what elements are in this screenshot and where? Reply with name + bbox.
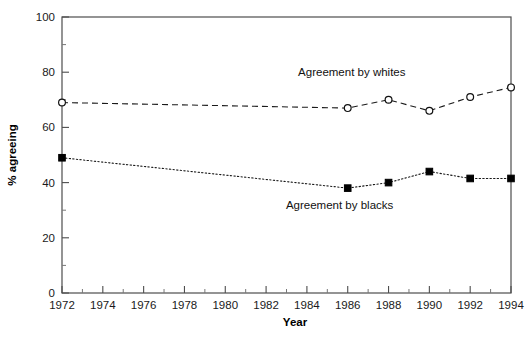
chart-background	[0, 0, 526, 339]
y-tick-label: 20	[42, 232, 55, 244]
chart-container: 020406080100 197219741976197819801982198…	[0, 0, 526, 339]
annotation-label-blacks: Agreement by blacks	[286, 199, 394, 211]
x-tick-label: 1986	[335, 299, 361, 311]
line-chart: 020406080100 197219741976197819801982198…	[0, 0, 526, 339]
x-tick-label: 1994	[498, 299, 524, 311]
x-tick-label: 1992	[457, 299, 483, 311]
data-point-marker	[59, 99, 66, 106]
y-tick-label: 60	[42, 121, 55, 133]
data-point-marker	[344, 105, 351, 112]
data-point-marker	[467, 175, 474, 182]
x-tick-label: 1978	[172, 299, 198, 311]
data-point-marker	[508, 84, 515, 91]
x-tick-label: 1990	[417, 299, 443, 311]
data-point-marker	[344, 185, 351, 192]
x-tick-label: 1988	[376, 299, 402, 311]
y-tick-label: 40	[42, 177, 55, 189]
data-point-marker	[385, 96, 392, 103]
x-tick-label: 1974	[90, 299, 116, 311]
data-point-marker	[508, 175, 515, 182]
x-tick-label: 1984	[294, 299, 320, 311]
x-tick-label: 1972	[49, 299, 75, 311]
x-tick-label: 1980	[212, 299, 238, 311]
data-point-marker	[467, 94, 474, 101]
annotation-label-whites: Agreement by whites	[298, 66, 406, 78]
data-point-marker	[59, 154, 66, 161]
x-axis-title: Year	[283, 316, 308, 328]
x-tick-label: 1976	[131, 299, 157, 311]
data-point-marker	[426, 168, 433, 175]
y-tick-label: 0	[49, 287, 55, 299]
data-point-marker	[385, 179, 392, 186]
y-tick-label: 80	[42, 66, 55, 78]
x-tick-label: 1982	[253, 299, 279, 311]
data-point-marker	[426, 107, 433, 114]
y-tick-label: 100	[36, 11, 55, 23]
y-axis-title: % agreeing	[6, 124, 18, 185]
